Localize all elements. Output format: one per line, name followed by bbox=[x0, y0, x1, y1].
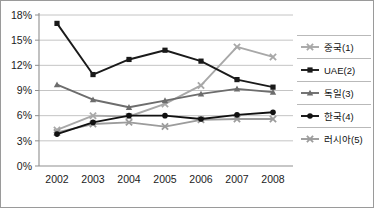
y-axis-label-15%: 15% bbox=[11, 34, 32, 46]
legend-item-한국(4)[interactable]: 한국(4) bbox=[301, 111, 354, 122]
series-line-UAE(2) bbox=[57, 23, 273, 87]
series-한국(4)-2005-marker bbox=[162, 113, 168, 119]
line-chart: 0%3%6%9%12%15%18%20022003200420052006200… bbox=[1, 1, 374, 208]
series-독일(3) bbox=[54, 81, 276, 109]
series-UAE(2)-2005-marker bbox=[162, 48, 167, 53]
series-UAE(2)-2007-marker bbox=[234, 77, 239, 82]
legend-item-러시아(5)[interactable]: 러시아(5) bbox=[301, 134, 363, 145]
x-axis-label-2008: 2008 bbox=[261, 173, 285, 185]
legend-한국(4)-marker bbox=[307, 113, 313, 119]
series-한국(4)-2008-marker bbox=[270, 110, 276, 116]
series-한국(4)-2007-marker bbox=[234, 112, 240, 118]
y-axis-label-9%: 9% bbox=[17, 84, 32, 96]
legend-UAE(2)-marker bbox=[307, 67, 312, 72]
x-axis-label-2003: 2003 bbox=[81, 173, 105, 185]
x-axis-label-2005: 2005 bbox=[153, 173, 177, 185]
y-axis-label-6%: 6% bbox=[17, 109, 32, 121]
series-한국(4)-2002-marker bbox=[54, 131, 60, 137]
series-한국(4) bbox=[54, 110, 276, 137]
legend-item-UAE(2)[interactable]: UAE(2) bbox=[301, 65, 355, 76]
series-UAE(2)-2008-marker bbox=[270, 85, 275, 90]
series-한국(4)-2003-marker bbox=[90, 120, 96, 126]
legend-label-독일(3): 독일(3) bbox=[324, 88, 354, 99]
series-UAE(2)-2004-marker bbox=[126, 57, 131, 62]
legend-item-중국(1)[interactable]: 중국(1) bbox=[301, 42, 354, 53]
y-axis-label-3%: 3% bbox=[17, 135, 32, 147]
x-axis-label-2007: 2007 bbox=[225, 173, 249, 185]
y-axis-label-18%: 18% bbox=[11, 9, 32, 21]
series-UAE(2)-2006-marker bbox=[198, 59, 203, 64]
legend-label-한국(4): 한국(4) bbox=[324, 111, 354, 122]
legend-label-중국(1): 중국(1) bbox=[324, 42, 354, 53]
legend-label-UAE(2): UAE(2) bbox=[324, 65, 355, 76]
x-axis-label-2004: 2004 bbox=[117, 173, 141, 185]
series-UAE(2)-2003-marker bbox=[90, 72, 95, 77]
series-한국(4)-2006-marker bbox=[198, 116, 204, 122]
x-axis-label-2002: 2002 bbox=[45, 173, 69, 185]
series-UAE(2)-2002-marker bbox=[54, 21, 59, 26]
x-axis-label-2006: 2006 bbox=[189, 173, 213, 185]
legend-item-독일(3)[interactable]: 독일(3) bbox=[301, 88, 354, 99]
chart-container: 0%3%6%9%12%15%18%20022003200420052006200… bbox=[0, 0, 374, 208]
series-독일(3)-2002-marker bbox=[54, 81, 60, 87]
y-axis-label-12%: 12% bbox=[11, 59, 32, 71]
series-UAE(2) bbox=[54, 21, 275, 90]
legend-label-러시아(5): 러시아(5) bbox=[324, 134, 363, 145]
y-axis-label-0%: 0% bbox=[17, 160, 32, 172]
series-한국(4)-2004-marker bbox=[126, 113, 132, 119]
